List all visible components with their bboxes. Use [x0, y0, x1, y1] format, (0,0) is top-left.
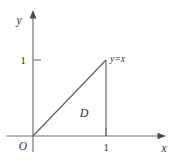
line-y-equals-x — [33, 60, 106, 136]
y-axis-label: y — [15, 14, 22, 27]
y-axis-arrowhead — [30, 10, 37, 19]
x-axis-label: x — [160, 142, 167, 154]
coordinate-diagram: y x O 1 1 y=x D — [0, 0, 176, 164]
x-axis-arrowhead — [158, 133, 167, 140]
y-tick-label-1: 1 — [20, 55, 25, 66]
figure-container: y x O 1 1 y=x D — [0, 0, 176, 164]
x-tick-label-1: 1 — [103, 142, 108, 153]
origin-label: O — [19, 140, 28, 152]
region-label-d: D — [79, 106, 89, 120]
curve-label-y-equals-x: y=x — [109, 54, 126, 64]
